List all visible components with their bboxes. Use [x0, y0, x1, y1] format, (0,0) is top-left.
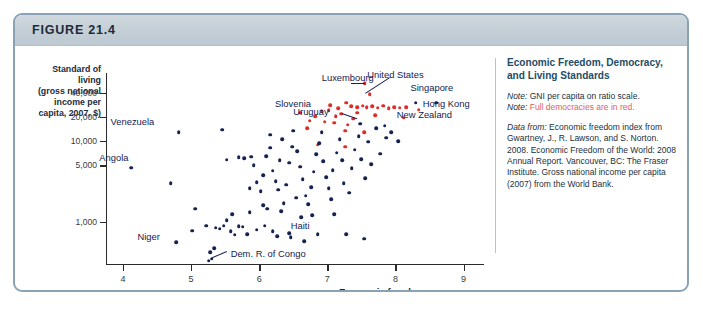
x-tick-mark — [259, 264, 260, 271]
data-point — [259, 189, 263, 193]
x-tick-label: 4 — [121, 274, 126, 284]
note-2-text: Full democracies are in red. — [530, 102, 635, 112]
data-point — [266, 207, 270, 211]
data-point — [204, 224, 208, 228]
data-point — [193, 207, 197, 211]
data-point — [268, 133, 272, 137]
y-tick-mark — [100, 117, 107, 118]
data-point — [379, 152, 383, 156]
x-tick-mark — [191, 264, 192, 271]
data-point — [248, 210, 252, 214]
note-1-prefix: Note: — [507, 91, 527, 101]
data-point — [208, 250, 212, 254]
data-point — [343, 129, 347, 133]
data-point — [212, 246, 216, 250]
data-point — [323, 120, 327, 124]
data-point — [364, 176, 368, 180]
point-annotation: Dem. R. of Congo — [231, 249, 306, 258]
data-point — [335, 151, 339, 155]
note-2-prefix: Note: — [507, 102, 527, 112]
data-point — [237, 156, 241, 160]
data-point — [366, 140, 370, 144]
note-democracies-red: Note: Full democracies are in red. — [507, 102, 682, 113]
data-point — [317, 141, 321, 145]
data-point — [278, 158, 282, 162]
point-annotation: Venezuela — [111, 117, 155, 126]
data-point — [245, 233, 249, 237]
data-point — [365, 105, 369, 109]
data-point — [282, 201, 286, 205]
data-point — [169, 182, 173, 186]
point-annotation: Luxembourg — [322, 73, 374, 82]
y-tick-label: 10,000 — [15, 136, 97, 146]
y-tick-mark — [100, 165, 107, 166]
data-point — [285, 183, 289, 187]
y-tick-label: 40,000 — [15, 88, 97, 98]
data-from-prefix: Data from: — [507, 122, 547, 132]
data-point — [353, 148, 357, 152]
data-point — [302, 239, 306, 243]
x-tick-mark — [395, 264, 396, 271]
data-point — [263, 224, 267, 228]
note-ratio-scale: Note: GNI per capita on ratio scale. — [507, 91, 682, 102]
data-point — [290, 145, 294, 149]
data-point — [274, 179, 278, 183]
data-point — [331, 168, 335, 172]
data-point — [357, 134, 361, 138]
point-annotation: Niger — [137, 232, 159, 241]
data-point — [281, 138, 285, 142]
y-tick-mark — [100, 93, 107, 94]
data-point — [321, 160, 325, 164]
point-annotation: Angola — [99, 153, 128, 162]
data-point — [237, 225, 241, 229]
annotation-leader-line — [351, 83, 365, 84]
data-point — [300, 215, 304, 219]
x-axis-title: Economic freedom — [339, 286, 425, 292]
data-point — [268, 146, 272, 150]
data-point — [320, 130, 324, 134]
y-axis-line — [106, 73, 107, 264]
data-point — [312, 170, 316, 174]
point-annotation: Haiti — [291, 221, 310, 230]
data-point — [345, 101, 349, 105]
data-point — [356, 105, 360, 109]
data-point — [292, 129, 296, 133]
data-point — [309, 185, 313, 189]
data-point — [271, 169, 275, 173]
data-point — [392, 105, 396, 109]
data-point — [330, 198, 334, 202]
data-point — [218, 227, 222, 231]
data-point — [294, 196, 298, 200]
data-point — [296, 149, 300, 153]
data-point — [225, 158, 229, 162]
data-point — [360, 157, 364, 161]
data-point — [347, 191, 351, 195]
side-panel: Economic Freedom, Democracy, and Living … — [507, 56, 682, 190]
data-point — [230, 212, 234, 216]
data-point — [362, 130, 366, 134]
y-tick-label: 5,000 — [15, 160, 97, 170]
figure-number-label: FIGURE 21.4 — [32, 23, 116, 37]
data-point — [384, 136, 388, 140]
y-tick-label: 1,000 — [15, 217, 97, 227]
data-point — [350, 167, 354, 171]
panel-divider — [495, 58, 496, 253]
data-point — [332, 212, 336, 216]
data-point — [387, 107, 391, 111]
data-point — [277, 188, 281, 192]
data-point — [311, 214, 315, 218]
x-tick-mark — [123, 264, 124, 271]
data-point — [301, 177, 305, 181]
data-point — [262, 204, 266, 208]
data-point — [229, 230, 233, 234]
point-annotation: United States — [367, 70, 423, 79]
x-tick-label: 9 — [461, 274, 466, 284]
data-point — [336, 107, 340, 111]
data-point — [328, 103, 332, 107]
data-point — [306, 202, 310, 206]
point-annotation: Hong Kong — [423, 99, 470, 108]
data-point — [334, 114, 338, 118]
data-point — [275, 235, 279, 239]
data-point — [396, 139, 400, 143]
x-tick-label: 7 — [325, 274, 330, 284]
